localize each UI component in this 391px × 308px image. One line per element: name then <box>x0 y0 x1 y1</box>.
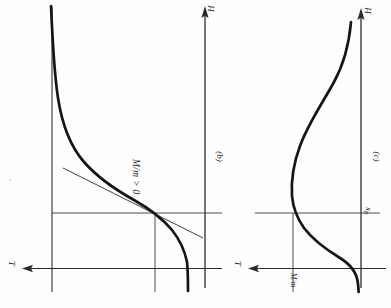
panel-b-tag: (b) <box>215 151 224 162</box>
panel-c-vertical-axis <box>357 8 364 288</box>
scan-artifact-speck <box>9 179 11 181</box>
panel-c-mm-tick-label: M/m <box>289 273 297 288</box>
figure-vector-layer <box>0 0 391 308</box>
panel-b-curve <box>51 6 188 291</box>
panel-c-xb-tick-label: xB <box>363 207 373 214</box>
panel-c-t-axis-label: T <box>233 261 242 266</box>
figure-canvas: H H T T (b) (c) M/m > 0 xB M/m <box>0 0 391 308</box>
panel-b-t-axis-label: T <box>7 261 16 266</box>
panel-c-tag: (c) <box>372 152 381 162</box>
panel-b-h-axis-label: H <box>206 5 215 12</box>
panel-b-mm-positive-note: M/m > 0 <box>131 159 141 194</box>
panel-c-curve <box>292 22 359 292</box>
xb-subscript: B <box>363 211 369 215</box>
panel-c-horizontal-axis <box>248 265 386 272</box>
panel-b-vertical-axis <box>201 6 208 288</box>
panel-c-h-axis-label: H <box>363 7 372 14</box>
